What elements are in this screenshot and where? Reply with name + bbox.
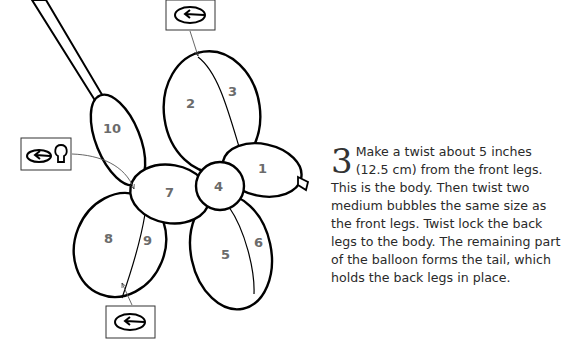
instruction-text-block: 3 Make a twist about 5 inches (12.5 cm) …	[331, 143, 563, 287]
label-2: 2	[186, 96, 195, 111]
instruction-text: Make a twist about 5 inches (12.5 cm) fr…	[331, 144, 560, 285]
twist-arrow-top	[190, 31, 198, 56]
label-1: 1	[258, 161, 267, 176]
twist-lock-icon	[21, 138, 71, 170]
label-7: 7	[165, 185, 174, 200]
label-10: 10	[103, 121, 121, 136]
twist-icon	[106, 306, 155, 338]
label-4: 4	[214, 179, 223, 194]
twist-icon	[166, 0, 215, 30]
label-3: 3	[228, 84, 237, 99]
step-number: 3	[331, 146, 353, 176]
label-6: 6	[254, 235, 263, 250]
label-8: 8	[104, 231, 113, 246]
label-9: 9	[143, 233, 152, 248]
label-5: 5	[221, 247, 230, 262]
